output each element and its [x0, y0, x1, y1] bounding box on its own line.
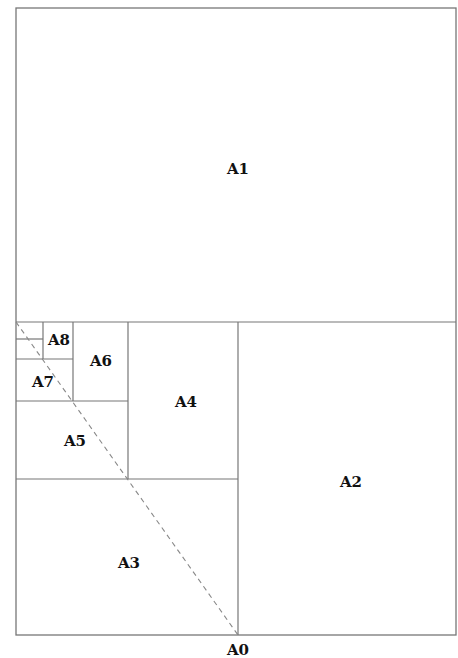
label-a1: A1 [226, 160, 249, 178]
label-a4: A4 [174, 393, 197, 411]
label-a6: A6 [89, 352, 112, 370]
label-a3: A3 [117, 554, 140, 572]
sheet-labels: A1 A2 A3 A4 A5 A6 A7 A8 A0 [31, 160, 362, 658]
label-a0: A0 [226, 641, 249, 658]
sheet-dividers [16, 322, 456, 635]
label-a7: A7 [31, 373, 54, 391]
label-a8: A8 [47, 331, 70, 349]
paper-sizes-diagram: A1 A2 A3 A4 A5 A6 A7 A8 A0 [0, 0, 458, 658]
label-a2: A2 [339, 473, 362, 491]
label-a5: A5 [63, 432, 86, 450]
